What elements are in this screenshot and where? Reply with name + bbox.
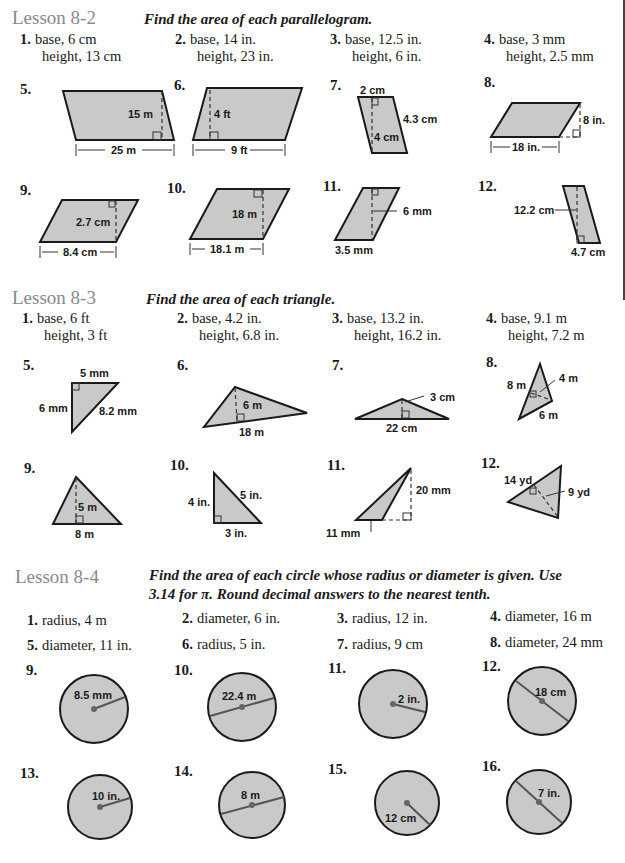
svg-text:12 cm: 12 cm (385, 812, 416, 824)
svg-text:10 in.: 10 in. (92, 790, 120, 802)
svg-text:7 in.: 7 in. (538, 787, 560, 799)
svg-text:8 m: 8 m (241, 789, 260, 801)
circle-figures-row2: 10 in. 8 m 12 cm 7 in. (0, 0, 625, 863)
